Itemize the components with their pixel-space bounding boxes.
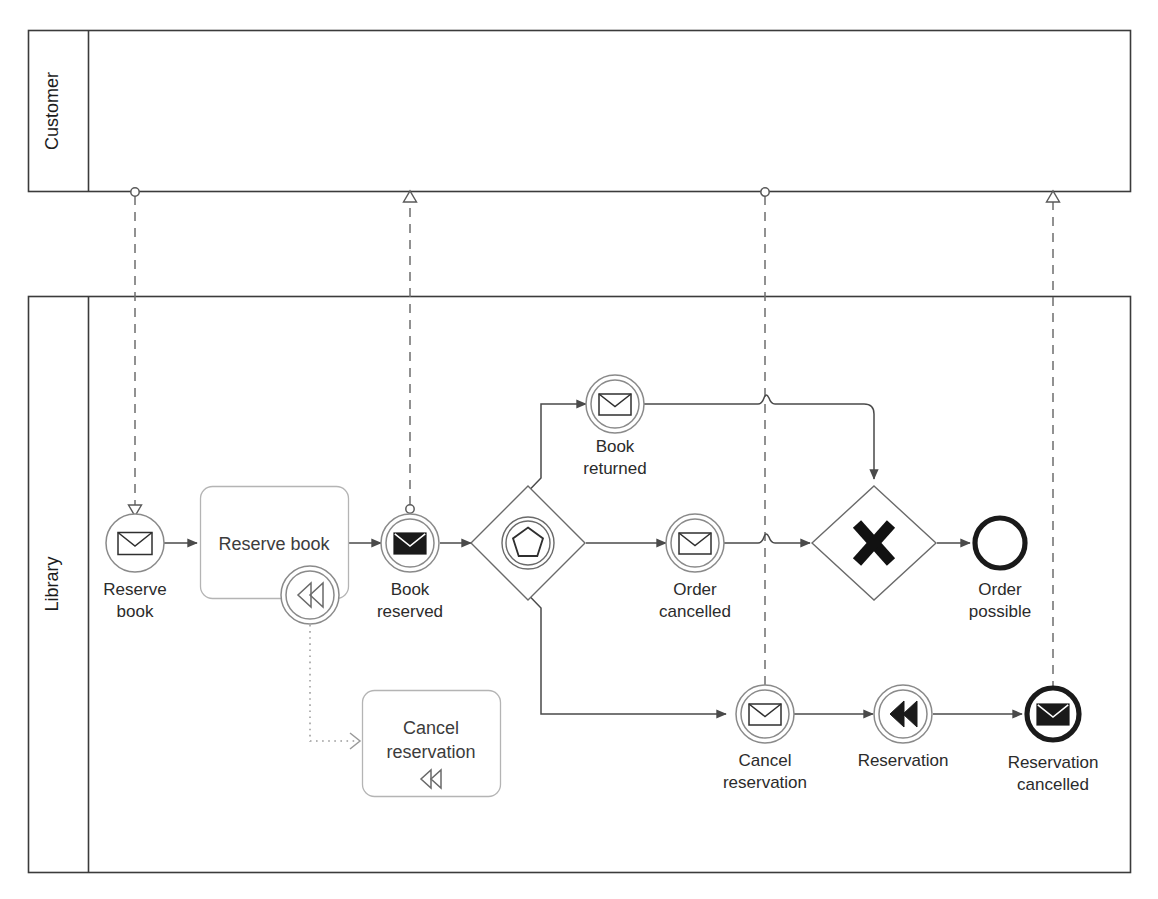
- bpmn-svg-root: Customer Library: [0, 0, 1158, 899]
- intermediate-catch-event-cancel-reservation-label-line1: Cancel: [739, 751, 792, 770]
- intermediate-catch-event-order-cancelled[interactable]: Order cancelled: [659, 514, 731, 621]
- end-event-order-possible[interactable]: Order possible: [969, 518, 1031, 621]
- intermediate-throw-event-reservation-compensation[interactable]: Reservation: [858, 685, 949, 770]
- message-end-event-reservation-cancelled[interactable]: Reservation cancelled: [1008, 688, 1099, 794]
- message-flow-cancel-confirmation[interactable]: [1047, 191, 1060, 698]
- start-event-reserve-book[interactable]: Reserve book: [103, 514, 166, 621]
- intermediate-throw-event-book-reserved-label-line2: reserved: [377, 602, 443, 621]
- intermediate-catch-event-cancel-reservation[interactable]: Cancel reservation: [723, 685, 807, 792]
- task-reserve-book-label: Reserve book: [218, 534, 330, 554]
- message-end-event-reservation-cancelled-label-line2: cancelled: [1017, 775, 1089, 794]
- sequence-flow-order-cancelled-to-exclusive[interactable]: [724, 534, 810, 543]
- task-cancel-reservation-label-line2: reservation: [386, 742, 475, 762]
- pool-library[interactable]: Library: [29, 297, 1131, 873]
- message-end-event-reservation-cancelled-label-line1: Reservation: [1008, 753, 1099, 772]
- envelope-icon: [679, 533, 711, 554]
- intermediate-throw-event-book-reserved-label-line1: Book: [391, 580, 430, 599]
- start-event-reserve-book-label-line1: Reserve: [103, 580, 166, 599]
- pool-customer[interactable]: Customer: [29, 31, 1131, 192]
- pool-customer-label: Customer: [42, 72, 62, 150]
- event-based-gateway[interactable]: [471, 486, 585, 600]
- envelope-solid-icon: [394, 533, 426, 554]
- intermediate-catch-event-book-returned[interactable]: Book returned: [583, 375, 646, 478]
- pool-library-label: Library: [42, 556, 62, 611]
- envelope-icon: [749, 704, 781, 725]
- message-flow-reserve-request[interactable]: [129, 188, 142, 516]
- sequence-flow-book-returned-to-exclusive[interactable]: [644, 395, 874, 479]
- task-cancel-reservation-label-line1: Cancel: [403, 718, 459, 738]
- message-flow-book-reserved[interactable]: [404, 191, 417, 513]
- task-cancel-reservation[interactable]: Cancel reservation: [363, 691, 501, 797]
- intermediate-catch-event-cancel-reservation-label-line2: reservation: [723, 773, 807, 792]
- envelope-icon: [599, 394, 631, 415]
- start-event-reserve-book-label-line2: book: [117, 602, 154, 621]
- intermediate-catch-event-book-returned-label-line2: returned: [583, 459, 646, 478]
- bpmn-diagram-canvas: Customer Library: [0, 0, 1158, 899]
- boundary-event-compensation[interactable]: [281, 566, 339, 624]
- sequence-flow-gateway-to-cancel-reservation[interactable]: [514, 580, 726, 714]
- end-event-order-possible-label-line2: possible: [969, 602, 1031, 621]
- intermediate-catch-event-order-cancelled-label-line1: Order: [673, 580, 717, 599]
- intermediate-catch-event-order-cancelled-label-line2: cancelled: [659, 602, 731, 621]
- intermediate-catch-event-book-returned-label-line1: Book: [596, 437, 635, 456]
- association-compensation-to-task[interactable]: [310, 625, 360, 749]
- message-flow-group: [129, 188, 1060, 699]
- exclusive-gateway[interactable]: [812, 486, 936, 600]
- end-event-order-possible-label-line1: Order: [978, 580, 1022, 599]
- message-flow-cancel-request[interactable]: [759, 188, 772, 699]
- envelope-icon: [118, 533, 152, 555]
- intermediate-throw-event-book-reserved[interactable]: Book reserved: [377, 514, 443, 621]
- envelope-solid-icon: [1037, 704, 1069, 725]
- intermediate-throw-event-reservation-compensation-label: Reservation: [858, 751, 949, 770]
